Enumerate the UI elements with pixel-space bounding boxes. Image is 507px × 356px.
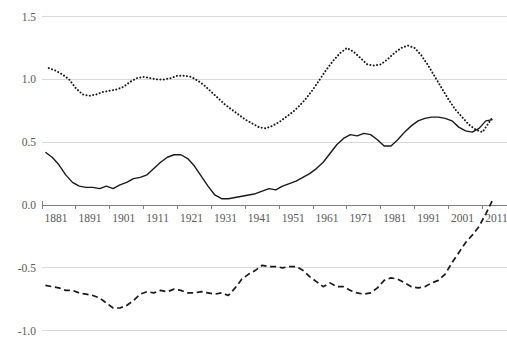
y-axis-tick-label: 0.0 [22, 199, 37, 211]
upper-dotted-series [49, 45, 493, 132]
x-axis-tick-label: 1951 [282, 212, 305, 224]
x-axis-tick-label: 1881 [45, 212, 68, 224]
y-axis-tick-label: 1.0 [22, 73, 37, 85]
x-axis-tick-label: 1901 [112, 212, 135, 224]
line-chart: 1.51.00.50.0-0.5-1.0 1881189119011911192… [0, 0, 507, 356]
x-axis-tick-label: 1981 [383, 212, 406, 224]
x-axis-tick-label: 1891 [78, 212, 101, 224]
series-group [45, 45, 492, 308]
x-axis-tick-label: 1931 [214, 212, 237, 224]
y-axis-tick-labels: 1.51.00.50.0-0.5-1.0 [18, 11, 36, 337]
y-axis-tick-label: -1.0 [18, 325, 36, 337]
gridlines-group [42, 17, 507, 331]
x-axis-tick-label: 1921 [180, 212, 203, 224]
x-axis-line-group [42, 201, 507, 209]
y-axis-tick-label: 0.5 [22, 136, 37, 148]
chart-container: 1.51.00.50.0-0.5-1.0 1881189119011911192… [0, 0, 507, 356]
y-axis-tick-label: -0.5 [18, 262, 36, 274]
x-axis-tick-label: 1991 [417, 212, 440, 224]
x-axis-tick-labels: 1881189119011911192119311941195119611971… [45, 212, 507, 224]
x-axis-tick-label: 1971 [349, 212, 372, 224]
x-axis-tick-label: 1911 [146, 212, 169, 224]
x-axis-tick-label: 2001 [451, 212, 474, 224]
x-axis-tick-label: 1941 [248, 212, 271, 224]
y-axis-tick-label: 1.5 [22, 11, 37, 23]
x-axis-tick-label: 2011 [485, 212, 507, 224]
x-axis-tick-label: 1961 [316, 212, 339, 224]
middle-solid-series [45, 117, 492, 199]
